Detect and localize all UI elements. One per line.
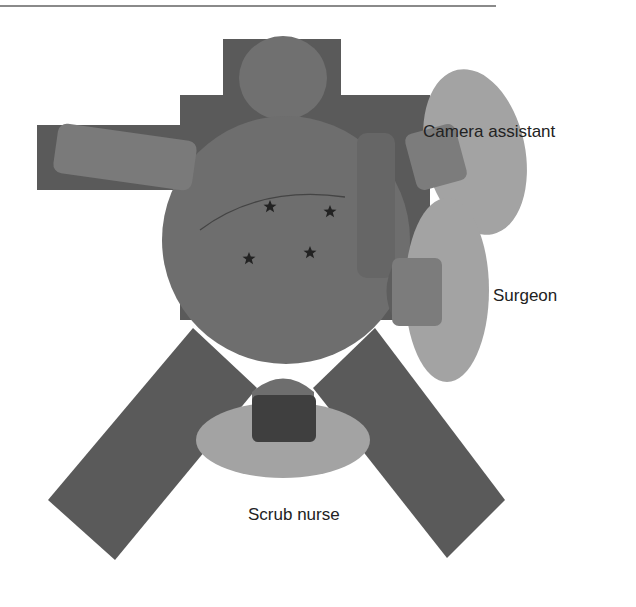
label-surgeon: Surgeon (493, 286, 557, 306)
label-scrub-nurse: Scrub nurse (248, 505, 340, 525)
patient-arm-right (357, 133, 395, 278)
surgeon-head (392, 258, 442, 326)
patient-head (239, 36, 327, 120)
label-camera-assistant: Camera assistant (423, 122, 555, 142)
scrub-nurse-head (252, 395, 316, 442)
